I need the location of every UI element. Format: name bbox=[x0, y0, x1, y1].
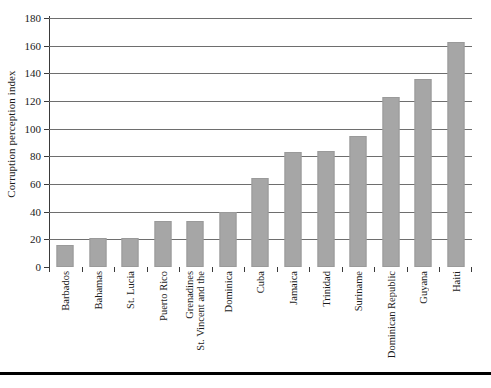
bar-slot bbox=[114, 18, 147, 267]
x-axis-label-line: Cuba bbox=[255, 271, 266, 293]
bar-slot bbox=[439, 18, 472, 267]
y-axis-tick-label: 180 bbox=[25, 13, 42, 24]
x-axis-label: Puerto Rico bbox=[147, 271, 180, 367]
y-axis-tick-label: 160 bbox=[25, 40, 42, 51]
x-axis-label-inner: Puerto Rico bbox=[157, 271, 168, 367]
y-axis-title: Corruption perception index bbox=[0, 0, 22, 268]
x-axis-label-line: Suriname bbox=[353, 271, 364, 311]
bar[interactable] bbox=[122, 238, 139, 267]
x-axis-label-line: Barbados bbox=[60, 271, 71, 311]
chart-figure: Corruption perception index 020406080100… bbox=[0, 0, 491, 388]
x-axis-labels: BarbadosBahamasSt. LuciaPuerto RicoSt. V… bbox=[49, 271, 472, 367]
x-axis-label: Guyana bbox=[407, 271, 440, 367]
x-axis-label: Jamaica bbox=[277, 271, 310, 367]
x-axis-label-line: St. Vincent and the bbox=[195, 271, 206, 351]
y-axis-tick-label: 40 bbox=[30, 206, 41, 217]
bar-slot bbox=[147, 18, 180, 267]
bar-slot bbox=[82, 18, 115, 267]
x-axis-label: Dominican Republic bbox=[374, 271, 407, 367]
x-axis-label: Haiti bbox=[439, 271, 472, 367]
bar[interactable] bbox=[382, 97, 399, 267]
x-axis-label-inner: Guyana bbox=[418, 271, 429, 367]
x-axis-label-inner: Barbados bbox=[60, 271, 71, 367]
x-axis-label-inner: Jamaica bbox=[288, 271, 299, 367]
x-axis-label-inner: Suriname bbox=[353, 271, 364, 367]
y-axis-tick-label: 80 bbox=[30, 151, 41, 162]
bar[interactable] bbox=[89, 238, 106, 267]
bar-slot bbox=[342, 18, 375, 267]
x-axis-label-inner: St. Vincent and theGrenadines bbox=[184, 271, 206, 367]
x-axis-label-line: Grenadines bbox=[184, 271, 195, 319]
x-axis-label: St. Vincent and theGrenadines bbox=[179, 271, 212, 367]
x-axis-label-inner: St. Lucia bbox=[125, 271, 136, 367]
bar-slot bbox=[179, 18, 212, 267]
x-axis-label-inner: Dominican Republic bbox=[385, 271, 396, 367]
plot-area: 020406080100120140160180 bbox=[49, 18, 472, 267]
x-axis-label-line: Bahamas bbox=[92, 271, 103, 310]
bar[interactable] bbox=[415, 79, 432, 267]
x-axis-label-line: Guyana bbox=[418, 271, 429, 304]
y-axis-tick-label: 60 bbox=[30, 179, 41, 190]
bar-slot bbox=[277, 18, 310, 267]
bar[interactable] bbox=[187, 221, 204, 267]
x-axis-label-inner: Haiti bbox=[450, 271, 461, 367]
x-axis-label: Bahamas bbox=[82, 271, 115, 367]
bar-slot bbox=[309, 18, 342, 267]
x-axis-label: St. Lucia bbox=[114, 271, 147, 367]
bar-series bbox=[49, 18, 472, 267]
x-axis-label: Trinidad bbox=[309, 271, 342, 367]
bar[interactable] bbox=[57, 245, 74, 267]
y-axis-tick-label: 140 bbox=[25, 68, 42, 79]
x-axis-label-line: St. Lucia bbox=[125, 271, 136, 309]
bar[interactable] bbox=[285, 152, 302, 267]
bar[interactable] bbox=[317, 151, 334, 267]
x-axis-label-line: Jamaica bbox=[288, 271, 299, 305]
x-axis-label: Barbados bbox=[49, 271, 82, 367]
x-axis-label: Suriname bbox=[342, 271, 375, 367]
y-axis-tick-label: 100 bbox=[25, 123, 42, 134]
x-axis-label-line: Dominica bbox=[222, 271, 233, 312]
bar[interactable] bbox=[154, 221, 171, 267]
y-axis-tick-label: 0 bbox=[36, 262, 42, 273]
bar[interactable] bbox=[350, 136, 367, 267]
x-axis-label-inner: Cuba bbox=[255, 271, 266, 367]
x-axis-label-line: Trinidad bbox=[320, 271, 331, 307]
x-axis-label: Dominica bbox=[212, 271, 245, 367]
y-axis-title-text: Corruption perception index bbox=[5, 70, 17, 197]
bar-slot bbox=[212, 18, 245, 267]
bar[interactable] bbox=[252, 178, 269, 267]
y-axis-tick-label: 120 bbox=[25, 96, 42, 107]
y-axis-tick-label: 20 bbox=[30, 234, 41, 245]
x-axis-label-inner: Bahamas bbox=[92, 271, 103, 367]
x-axis-label: Cuba bbox=[244, 271, 277, 367]
bar-slot bbox=[49, 18, 82, 267]
bar[interactable] bbox=[219, 212, 236, 267]
x-axis-label-inner: Trinidad bbox=[320, 271, 331, 367]
bottom-divider bbox=[0, 372, 491, 375]
x-axis-label-line: Dominican Republic bbox=[385, 271, 396, 358]
bar-slot bbox=[374, 18, 407, 267]
bar-slot bbox=[407, 18, 440, 267]
bar[interactable] bbox=[447, 42, 464, 267]
bar-slot bbox=[244, 18, 277, 267]
x-axis-label-line: Haiti bbox=[450, 271, 461, 292]
x-axis-label-inner: Dominica bbox=[222, 271, 233, 367]
x-axis-label-line: Puerto Rico bbox=[157, 271, 168, 321]
